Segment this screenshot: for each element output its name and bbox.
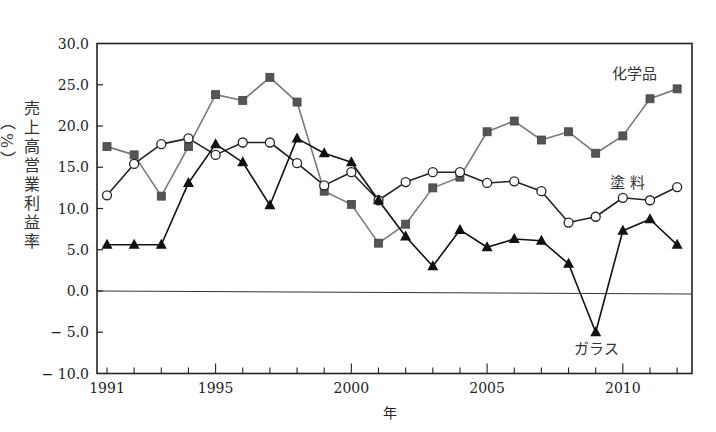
x-tick-label: 2010: [605, 380, 641, 396]
x-tick-label: 2000: [334, 380, 370, 396]
circle-marker: [537, 187, 546, 196]
triangle-marker: [590, 326, 601, 336]
square-marker: [157, 192, 165, 200]
triangle-marker: [129, 239, 140, 249]
y-tick-label: 10.0: [58, 201, 89, 217]
triangle-marker: [102, 239, 113, 249]
circle-marker: [673, 183, 682, 192]
circle-marker: [184, 134, 193, 143]
circle-marker: [293, 159, 302, 168]
series-label: ガラス: [574, 340, 619, 358]
square-marker: [537, 136, 545, 144]
square-marker: [592, 149, 600, 157]
chart-axes: 30.025.020.015.010.05.00.0− 5.0− 10.0199…: [42, 36, 692, 422]
triangle-marker: [264, 199, 275, 209]
series-label: 塗 料: [610, 174, 645, 192]
circle-marker: [483, 178, 492, 187]
square-marker: [429, 184, 437, 192]
triangle-marker: [319, 147, 330, 157]
y-tick-label: 30.0: [58, 36, 89, 52]
zero-line: [97, 291, 692, 294]
square-marker: [293, 98, 301, 106]
series-line-triangle: [107, 138, 677, 332]
circle-marker: [238, 138, 247, 147]
square-marker: [266, 73, 274, 81]
square-marker: [619, 132, 627, 140]
square-marker: [103, 143, 111, 151]
square-marker: [239, 96, 247, 104]
triangle-marker: [156, 239, 167, 249]
y-tick-label: 5.0: [67, 242, 89, 258]
circle-marker: [428, 168, 437, 177]
circle-marker: [455, 168, 464, 177]
y-tick-label: 25.0: [58, 77, 89, 93]
circle-marker: [564, 218, 573, 227]
plot-frame: [97, 44, 692, 374]
circle-marker: [510, 177, 519, 186]
square-marker: [375, 239, 383, 247]
square-marker: [184, 143, 192, 151]
y-tick-label: − 5.0: [51, 324, 89, 340]
circle-marker: [320, 181, 329, 190]
square-marker: [565, 128, 573, 136]
y-axis-label: 売上高営業利益率 （%）: [22, 100, 42, 252]
circle-marker: [130, 159, 139, 168]
square-marker: [130, 151, 138, 159]
y-axis-label-main: 売上高営業利益率: [21, 100, 40, 252]
circle-marker: [591, 212, 600, 221]
y-tick-label: 15.0: [58, 159, 89, 175]
square-marker: [483, 128, 491, 136]
circle-marker: [157, 140, 166, 149]
circle-marker: [103, 191, 112, 200]
square-marker: [347, 200, 355, 208]
square-marker: [212, 91, 220, 99]
chart-series: [102, 73, 683, 336]
circle-marker: [265, 138, 274, 147]
circle-marker: [646, 196, 655, 205]
line-chart: 30.025.020.015.010.05.00.0− 5.0− 10.0199…: [0, 0, 716, 432]
square-marker: [510, 117, 518, 125]
triangle-marker: [210, 138, 221, 148]
y-tick-label: − 10.0: [42, 366, 89, 382]
triangle-marker: [454, 224, 465, 234]
x-tick-label: 1995: [198, 380, 234, 396]
square-marker: [673, 85, 681, 93]
circle-marker: [618, 193, 627, 202]
circle-marker: [211, 150, 220, 159]
x-tick-label: 1991: [89, 380, 125, 396]
square-marker: [646, 95, 654, 103]
triangle-marker: [563, 258, 574, 268]
x-tick-label: 2005: [469, 380, 505, 396]
series-labels: 化学品塗 料ガラス: [574, 65, 657, 358]
circle-marker: [347, 168, 356, 177]
circle-marker: [401, 178, 410, 187]
y-axis-label-unit: （%）: [0, 114, 18, 252]
x-axis-label: 年: [383, 405, 397, 421]
square-marker: [402, 220, 410, 228]
triangle-marker: [237, 156, 248, 166]
y-tick-label: 20.0: [58, 118, 89, 134]
triangle-marker: [509, 233, 520, 243]
y-tick-label: 0.0: [67, 283, 89, 299]
triangle-marker: [645, 213, 656, 223]
series-label: 化学品: [612, 65, 657, 83]
triangle-marker: [292, 132, 303, 142]
